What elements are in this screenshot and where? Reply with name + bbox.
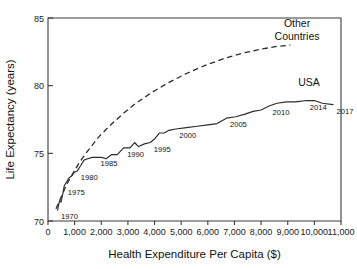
year-label-2000: 2000: [179, 131, 196, 140]
x-tick-label-3,000: 3,000: [117, 227, 140, 237]
y-tick-label-70: 70: [34, 217, 44, 227]
x-tick-label-8,000: 8,000: [250, 227, 273, 237]
year-label-1970: 1970: [61, 212, 78, 221]
series-line-other-countries: [56, 45, 290, 209]
year-label-2017: 2017: [337, 107, 354, 116]
x-tick-label-7,000: 7,000: [223, 227, 246, 237]
plot-frame: [48, 18, 341, 221]
chart-canvas: 01,0002,0003,0004,0005,0006,0007,0008,00…: [0, 0, 357, 269]
year-label-2005: 2005: [230, 120, 247, 129]
y-tick-label-75: 75: [34, 149, 44, 159]
data-point-year-labels: 1970197519801985199019952000200520102014…: [61, 103, 353, 222]
axis-frame: [48, 18, 341, 221]
x-tick-label-4,000: 4,000: [143, 227, 166, 237]
year-label-1990: 1990: [127, 150, 144, 159]
year-label-1995: 1995: [154, 145, 171, 154]
x-tick-label-2,000: 2,000: [90, 227, 113, 237]
year-label-1975: 1975: [68, 188, 85, 197]
series-annotations: OtherCountriesUSA: [275, 17, 320, 87]
x-tick-label-6,000: 6,000: [197, 227, 220, 237]
x-tick-label-10,000: 10,000: [301, 227, 329, 237]
x-axis-title: Health Expenditure Per Capita ($): [108, 248, 281, 260]
year-label-1985: 1985: [101, 159, 118, 168]
x-axis-ticks: 01,0002,0003,0004,0005,0006,0007,0008,00…: [45, 221, 354, 237]
y-axis-title: Life Expectancy (years): [4, 59, 16, 179]
other-countries-label-line1: Other: [284, 17, 311, 29]
data-series-layer: [56, 45, 333, 210]
year-label-2014: 2014: [310, 103, 327, 112]
series-line-usa: [58, 101, 333, 211]
x-tick-label-5,000: 5,000: [170, 227, 193, 237]
x-tick-label-11,000: 11,000: [328, 227, 355, 237]
other-countries-label-line2: Countries: [275, 30, 320, 42]
life-expectancy-vs-health-expenditure-chart: 01,0002,0003,0004,0005,0006,0007,0008,00…: [0, 0, 357, 269]
x-tick-label-0: 0: [45, 227, 50, 237]
x-tick-label-9,000: 9,000: [276, 227, 299, 237]
usa-label: USA: [298, 76, 320, 88]
y-tick-label-85: 85: [34, 14, 44, 24]
y-tick-label-80: 80: [34, 81, 44, 91]
year-label-2010: 2010: [273, 108, 290, 117]
y-axis-ticks: 70758085: [34, 14, 53, 227]
year-label-1980: 1980: [81, 173, 98, 182]
x-tick-label-1,000: 1,000: [63, 227, 86, 237]
